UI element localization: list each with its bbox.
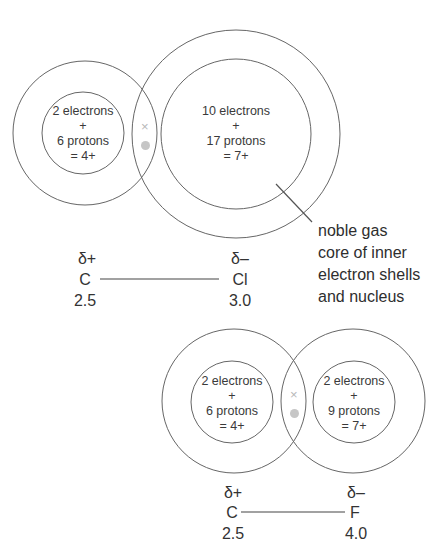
cl-partial-charge: δ– [225, 249, 255, 268]
shared-electron-dot-icon [290, 409, 299, 418]
c2-partial-charge: δ+ [218, 483, 248, 502]
c-electronegativity: 2.5 [70, 291, 100, 310]
shared-electron-x-icon: × [141, 120, 149, 133]
c-partial-charge: δ+ [72, 249, 102, 268]
annotation-pointer-line [276, 184, 312, 222]
cl-symbol: Cl [225, 270, 255, 289]
cl-electronegativity: 3.0 [225, 291, 255, 310]
c2-electronegativity: 2.5 [218, 524, 248, 543]
shared-electron-dot-icon [141, 141, 150, 150]
noble-gas-core-annotation: noble gas core of inner electron shells … [318, 220, 420, 308]
f-core-label: 2 electrons + 9 protons = 7+ [314, 374, 394, 434]
f-electronegativity: 4.0 [341, 524, 371, 543]
f-partial-charge: δ– [341, 483, 371, 502]
cl-core-label: 10 electrons + 17 protons = 7+ [191, 104, 281, 164]
c2-core-label: 2 electrons + 6 protons = 4+ [192, 374, 272, 434]
c2-symbol: C [217, 503, 247, 522]
f-symbol: F [340, 503, 370, 522]
shared-electron-x-icon: × [290, 388, 298, 401]
c-core-label: 2 electrons + 6 protons = 4+ [43, 104, 123, 164]
c-symbol: C [70, 270, 100, 289]
